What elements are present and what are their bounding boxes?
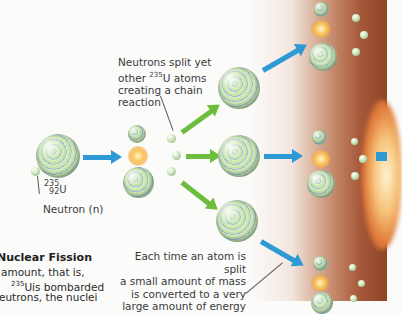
product-neutron-middle-1 xyxy=(359,155,367,163)
product-neutron-middle-2 xyxy=(351,172,359,180)
green-arrow-middle xyxy=(186,154,212,159)
incoming-neutron xyxy=(31,167,40,176)
product-fragment-top-small xyxy=(314,2,329,17)
released-neutron-3 xyxy=(167,167,176,176)
blue-arrow-fission-1 xyxy=(83,155,113,160)
product-fragment-bottom-small xyxy=(313,256,328,271)
neutron-label: Neutron (n) xyxy=(43,203,103,216)
energy-flash-middle xyxy=(311,150,331,168)
energy-flash-top xyxy=(311,20,331,38)
green-arrow-down xyxy=(180,181,211,207)
released-neutron-1 xyxy=(167,134,176,143)
target-nucleus-top xyxy=(218,67,260,109)
product-fragment-middle-large xyxy=(307,170,335,198)
fission-fragment-large xyxy=(123,167,154,198)
product-fragment-bottom-large xyxy=(311,292,333,314)
green-arrow-up xyxy=(181,108,215,134)
product-fragment-top-large xyxy=(309,43,337,71)
product-neutron-top-2 xyxy=(360,31,368,39)
body-text-line-1: amount, that is, xyxy=(1,266,85,279)
blue-arrow-offscreen xyxy=(376,152,387,161)
product-fragment-top-extra xyxy=(312,130,327,145)
product-neutron-bottom-3 xyxy=(350,295,357,302)
body-text-line-3: eutrons, the nuclei xyxy=(0,291,98,304)
target-nucleus-bottom xyxy=(216,200,258,242)
isotope-notation: 235 92 U xyxy=(44,180,67,196)
product-neutron-bottom-1 xyxy=(349,264,356,271)
uranium-235-nucleus xyxy=(36,134,80,178)
energy-flash xyxy=(128,146,148,166)
fission-fragment-small xyxy=(128,125,146,143)
section-heading: Nuclear Fission xyxy=(0,251,92,264)
product-neutron-bottom-2 xyxy=(358,280,365,287)
released-neutron-2 xyxy=(172,151,181,160)
target-nucleus-middle xyxy=(218,135,260,177)
blue-arrow-middle xyxy=(264,154,294,159)
neutron-leader-line xyxy=(37,176,40,194)
chain-reaction-label: Neutrons split yet other 235U atoms crea… xyxy=(118,56,211,109)
product-neutron-top-4 xyxy=(351,138,358,145)
product-neutron-top-1 xyxy=(352,14,360,22)
product-neutron-top-3 xyxy=(352,48,360,56)
energy-flash-bottom xyxy=(311,275,329,291)
explosion-flash xyxy=(362,100,402,250)
energy-label: Each time an atom is split a small amoun… xyxy=(118,250,246,313)
element-symbol: U xyxy=(59,186,66,194)
atomic-number: 92 xyxy=(49,188,59,196)
